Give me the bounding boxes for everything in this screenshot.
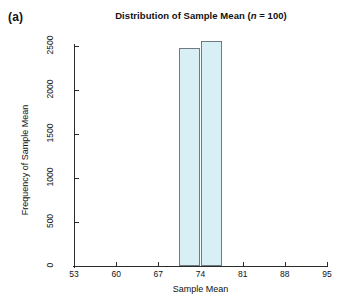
y-axis-tick-label: 1500 (45, 116, 55, 150)
y-axis-tick (74, 178, 79, 179)
chart-title-tail: = 100) (257, 10, 287, 21)
y-axis-tick (74, 222, 79, 223)
y-axis-tick-label: 1000 (45, 160, 55, 194)
x-axis-tick (243, 262, 244, 267)
chart-title: Distribution of Sample Mean (n = 100) (74, 10, 328, 21)
x-axis-tick-label: 60 (103, 269, 129, 279)
figure-panel: (a) Distribution of Sample Mean (n = 100… (0, 0, 344, 307)
x-axis-tick-label: 67 (145, 269, 171, 279)
panel-label: (a) (8, 10, 23, 24)
x-axis-tick (116, 262, 117, 267)
y-axis-tick-label: 0 (45, 248, 55, 282)
x-axis-tick (74, 262, 75, 267)
x-axis-tick-label: 81 (230, 269, 256, 279)
histogram-bar (201, 41, 222, 266)
y-axis-tick (74, 134, 79, 135)
x-axis-tick-label: 88 (272, 269, 298, 279)
y-axis-tick (74, 90, 79, 91)
y-axis-tick-label: 500 (45, 204, 55, 238)
y-axis-tick-label: 2000 (45, 72, 55, 106)
x-axis-tick (158, 262, 159, 267)
x-axis-tick-label: 95 (314, 269, 340, 279)
x-axis-tick (285, 262, 286, 267)
y-axis-title: Frequency of Sample Mean (20, 90, 30, 230)
x-axis-tick (327, 262, 328, 267)
y-axis-tick (74, 46, 79, 47)
x-axis-tick-label: 74 (188, 269, 214, 279)
chart-title-main: Distribution of Sample Mean ( (115, 10, 251, 21)
x-axis-tick-label: 53 (61, 269, 87, 279)
x-axis-title: Sample Mean (74, 284, 327, 294)
y-axis-tick-label: 2500 (45, 28, 55, 62)
histogram-bar (179, 48, 200, 266)
